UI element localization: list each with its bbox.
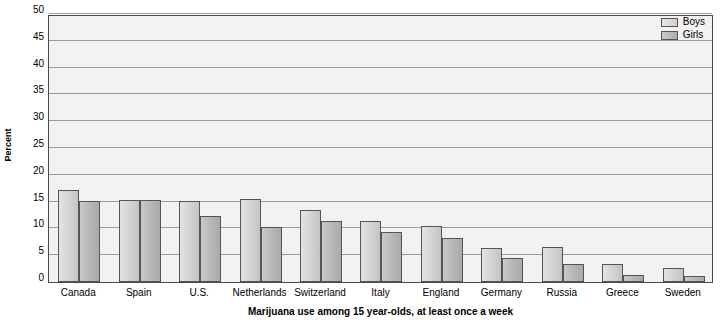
bar-boys-us: [179, 201, 200, 282]
y-axis-tick-label: 20: [33, 166, 44, 176]
y-axis-tick-label: 30: [33, 112, 44, 122]
y-axis-tick-label: 45: [33, 32, 44, 42]
bar-cluster: [170, 201, 230, 282]
x-axis-tick-label: Spain: [126, 287, 152, 299]
x-axis-tick-label: Greece: [606, 287, 639, 299]
y-axis-tick-label: 25: [33, 139, 44, 149]
bar-girls-italy: [381, 232, 402, 282]
bar-cluster: [351, 221, 411, 282]
x-axis-tick-label: Netherlands: [233, 287, 287, 299]
bar-girls-sweden: [684, 276, 705, 282]
bar-boys-italy: [360, 221, 381, 282]
legend-swatch-girls: [661, 31, 678, 40]
x-axis-tick-label: Canada: [61, 287, 96, 299]
bar-boys-spain: [119, 200, 140, 282]
x-axis-tick-label: Sweden: [665, 287, 701, 299]
x-axis-tick-label: Italy: [371, 287, 389, 299]
y-axis-tick-label: 50: [33, 5, 44, 15]
bar-girls-us: [200, 216, 221, 282]
bar-boys-canada: [58, 190, 79, 282]
bar-boys-netherlands: [240, 199, 261, 282]
bar-boys-russia: [542, 247, 563, 282]
legend: BoysGirls: [657, 14, 709, 44]
bar-cluster: [593, 264, 653, 282]
x-axis-tick-label: Russia: [547, 287, 578, 299]
legend-item-girls: Girls: [661, 29, 705, 41]
x-axis-title: Marijuana use among 15 year-olds, at lea…: [48, 306, 713, 317]
legend-label-girls: Girls: [683, 30, 704, 40]
y-axis-tick-labels: 05101520253035404550: [18, 10, 44, 285]
y-axis-tick-label: 35: [33, 85, 44, 95]
bar-girls-russia: [563, 264, 584, 282]
bar-chart: Percent 05101520253035404550 BoysGirls C…: [0, 0, 721, 327]
bar-boys-greece: [602, 264, 623, 282]
bar-cluster: [472, 248, 532, 282]
x-axis-tick-label: Germany: [481, 287, 522, 299]
y-axis-tick-label: 0: [38, 273, 44, 283]
legend-label-boys: Boys: [683, 17, 705, 27]
bar-cluster: [49, 190, 109, 282]
bar-girls-greece: [623, 275, 644, 282]
x-axis-tick-label: England: [423, 287, 460, 299]
bar-girls-switzerland: [321, 221, 342, 282]
plot-area: [48, 15, 713, 283]
gridline: [49, 13, 712, 14]
legend-swatch-boys: [661, 18, 678, 27]
bar-cluster: [412, 226, 472, 282]
bar-boys-sweden: [663, 268, 684, 282]
bar-girls-netherlands: [261, 227, 282, 282]
legend-item-boys: Boys: [661, 16, 705, 28]
bar-cluster: [109, 200, 169, 282]
bar-girls-canada: [79, 201, 100, 282]
y-axis-label: Percent: [0, 0, 16, 290]
y-axis-tick-label: 15: [33, 193, 44, 203]
bars-layer: [49, 16, 712, 282]
bar-cluster: [654, 268, 714, 282]
y-axis-tick-label: 10: [33, 219, 44, 229]
x-axis-tick-label: U.S.: [189, 287, 208, 299]
bar-cluster: [230, 199, 290, 282]
y-axis-tick-label: 40: [33, 59, 44, 69]
bar-boys-switzerland: [300, 210, 321, 282]
bar-boys-germany: [481, 248, 502, 282]
y-axis-label-text: Percent: [3, 128, 13, 161]
y-axis-tick-label: 5: [38, 246, 44, 256]
bar-girls-germany: [502, 258, 523, 282]
bar-boys-england: [421, 226, 442, 282]
x-axis-tick-label: Switzerland: [294, 287, 346, 299]
bar-girls-spain: [140, 200, 161, 282]
bar-girls-england: [442, 238, 463, 282]
bar-cluster: [291, 210, 351, 282]
bar-cluster: [533, 247, 593, 282]
x-axis-tick-labels: CanadaSpainU.S.NetherlandsSwitzerlandIta…: [48, 287, 713, 303]
